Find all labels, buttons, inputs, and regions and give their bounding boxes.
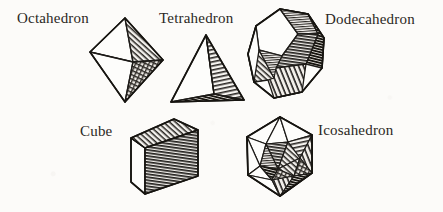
figure-tetrahedron — [166, 30, 250, 108]
figure-octahedron — [84, 12, 170, 106]
platonic-solids-illustration: Octahedron Tetrahedron Dodecahedron Cube… — [0, 0, 443, 212]
label-cube: Cube — [80, 124, 112, 139]
label-octahedron: Octahedron — [17, 11, 89, 26]
figure-icosahedron — [238, 114, 322, 202]
figure-cube — [128, 116, 204, 198]
label-tetrahedron: Tetrahedron — [159, 11, 233, 26]
label-icosahedron: Icosahedron — [318, 123, 394, 138]
label-dodecahedron: Dodecahedron — [325, 12, 415, 27]
figure-dodecahedron — [246, 6, 328, 104]
